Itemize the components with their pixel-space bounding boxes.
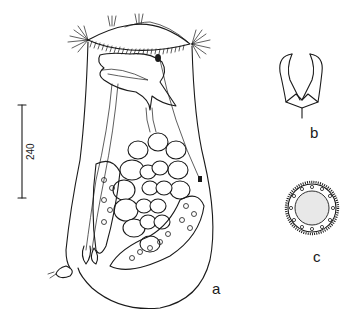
scale-bar: 240 <box>18 105 36 198</box>
yolk-cells <box>113 133 190 252</box>
panel-label-c: c <box>313 248 321 265</box>
scale-bar-label: 240 <box>25 143 36 160</box>
figure-canvas: 240 <box>0 0 355 324</box>
panel-c-egg: c <box>286 182 338 265</box>
panel-b-trophi: b <box>280 54 323 141</box>
panel-label-a: a <box>212 280 221 297</box>
panel-a-rotifer: a <box>48 14 221 309</box>
corona-cilia <box>68 14 210 58</box>
panel-label-b: b <box>310 124 318 141</box>
